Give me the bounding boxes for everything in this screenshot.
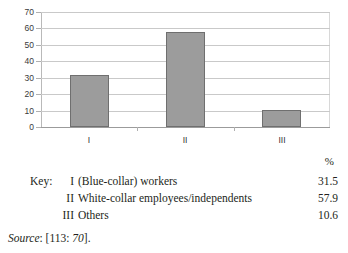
y-tick-mark bbox=[36, 61, 41, 62]
y-tick-mark bbox=[36, 12, 41, 13]
y-axis-tick-label: 70 bbox=[8, 8, 34, 16]
key-row: II White-collar employees/independents 5… bbox=[0, 192, 348, 208]
y-axis-tick-label: 40 bbox=[8, 57, 34, 65]
key-row: III Others 10.6 bbox=[0, 209, 348, 225]
bar bbox=[70, 75, 109, 127]
source-page: 70 bbox=[72, 232, 84, 244]
gridline bbox=[41, 28, 330, 29]
y-axis-tick-label: 0 bbox=[8, 123, 34, 131]
key-value: 57.9 bbox=[304, 192, 338, 204]
key-row: Key: I (Blue-collar) workers 31.5 bbox=[0, 175, 348, 191]
x-axis-tick-label: I bbox=[69, 135, 109, 145]
figure-container: 010203040506070 IIIIII % Key: I (Blue-co… bbox=[0, 0, 348, 253]
bar bbox=[262, 110, 301, 127]
source-end: ]. bbox=[84, 232, 91, 244]
key-description: Others bbox=[78, 209, 109, 221]
bar bbox=[166, 32, 205, 127]
y-axis-tick-label: 20 bbox=[8, 90, 34, 98]
source-reference: 113 bbox=[49, 232, 66, 244]
y-axis-tick-label: 50 bbox=[8, 41, 34, 49]
source-line: Source: [113: 70]. bbox=[8, 232, 91, 244]
key-numeral: III bbox=[48, 209, 74, 221]
x-tick-mark bbox=[234, 127, 235, 131]
y-axis-tick-label: 30 bbox=[8, 74, 34, 82]
x-axis-tick-label: III bbox=[262, 135, 302, 145]
gridline bbox=[41, 12, 330, 13]
x-tick-mark bbox=[137, 127, 138, 131]
y-tick-mark bbox=[36, 45, 41, 46]
key-description: (Blue-collar) workers bbox=[78, 175, 177, 187]
y-axis-tick-label: 10 bbox=[8, 107, 34, 115]
gridline bbox=[41, 127, 330, 128]
y-tick-mark bbox=[36, 127, 41, 128]
bar-chart: 010203040506070 IIIIII bbox=[0, 0, 348, 152]
y-tick-mark bbox=[36, 111, 41, 112]
key-description: White-collar employees/independents bbox=[78, 192, 252, 204]
y-tick-mark bbox=[36, 28, 41, 29]
percent-column-header: % bbox=[325, 155, 334, 167]
source-separator: : [ bbox=[40, 232, 50, 244]
x-axis-tick-label: II bbox=[165, 135, 205, 145]
key-numeral: I bbox=[48, 175, 74, 187]
source-label: Source bbox=[8, 232, 40, 244]
y-tick-mark bbox=[36, 94, 41, 95]
key-value: 10.6 bbox=[304, 209, 338, 221]
y-tick-mark bbox=[36, 78, 41, 79]
y-axis-tick-label: 60 bbox=[8, 24, 34, 32]
key-numeral: II bbox=[48, 192, 74, 204]
key-value: 31.5 bbox=[304, 175, 338, 187]
